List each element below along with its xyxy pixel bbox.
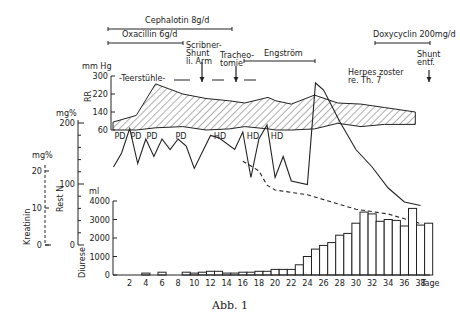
x-tick-label: 2: [127, 278, 132, 288]
diurese-bar: [336, 235, 344, 275]
diurese-bar: [263, 271, 271, 275]
diurese-bar: [207, 271, 215, 275]
diurese-bar: [287, 269, 295, 275]
diurese-bar: [368, 214, 376, 275]
kreatinin-tick-label: 0: [37, 240, 42, 250]
diurese-axis-label: Diurese: [77, 247, 87, 278]
diurese-bar: [215, 271, 223, 275]
teerstuehle-label: -Teerstühle-: [119, 74, 165, 83]
diurese-bar: [376, 221, 384, 275]
x-tick-label: 8: [176, 278, 181, 288]
dialysis-label: HD: [271, 131, 283, 141]
figure-caption: Abb. 1: [211, 299, 248, 312]
x-tick-label: 22: [286, 278, 296, 288]
rr-tick-label: 220: [93, 89, 108, 99]
rr-axis-label: RR: [83, 90, 93, 102]
diurese-bar: [344, 233, 352, 275]
x-tick-label: 30: [351, 278, 361, 288]
diurese-bar: [425, 223, 433, 275]
x-tick-label: 32: [367, 278, 377, 288]
x-tick-label: 26: [318, 278, 328, 288]
therapy-label: Doxycyclin 200mg/d: [373, 29, 456, 39]
diurese-tick-label: 4000: [89, 196, 110, 206]
x-tick-label: 14: [221, 278, 231, 288]
x-tick-label: 4: [143, 278, 148, 288]
event-label: re. Th. 7: [348, 76, 381, 85]
diurese-bar: [279, 269, 287, 275]
x-tick-label: 18: [254, 278, 264, 288]
diurese-bar: [303, 257, 311, 276]
diurese-bar: [417, 225, 425, 275]
rr-tick-label: 300: [93, 71, 108, 81]
therapy-label: Cephalotin 8g/d: [145, 15, 209, 25]
diurese-panel: 40003000200010000mlDiurese: [77, 186, 433, 280]
kreatinin-unit: mg%: [32, 150, 53, 160]
kreatinin-tick-label: 10: [32, 203, 42, 213]
dialysis-label: PD: [146, 131, 157, 141]
event-label: li. Arm: [186, 57, 212, 66]
therapy-label: Oxacillin 6g/d: [122, 29, 177, 39]
clinical-course-chart: Cephalotin 8g/dOxacillin 6g/dEngströmDox…: [0, 0, 460, 320]
diurese-bar: [392, 220, 400, 275]
diurese-bar: [409, 208, 417, 275]
rest-n-tick-label: 200: [60, 118, 75, 128]
diurese-bar: [400, 226, 408, 275]
rr-tick-label: 60: [98, 125, 108, 135]
therapy-label: Engström: [264, 48, 303, 58]
diurese-bar: [384, 220, 392, 276]
diurese-tick-label: 1000: [89, 252, 110, 262]
dialysis-label: HD: [214, 131, 226, 141]
kreatinin-tick-label: 20: [32, 166, 42, 176]
rr-area: [113, 84, 415, 130]
x-tick-label: 10: [189, 278, 199, 288]
therapy-bars: Cephalotin 8g/dOxacillin 6g/dEngströmDox…: [108, 15, 456, 63]
x-tick-label: 16: [238, 278, 248, 288]
diurese-bar: [312, 249, 320, 275]
rest-n-tick-label: 0: [70, 240, 75, 250]
diurese-bar: [295, 265, 303, 275]
diurese-bar: [328, 243, 336, 275]
dialysis-label: PD: [114, 131, 125, 141]
rr-unit: mm Hg: [82, 61, 112, 71]
x-axis-unit: Tage: [420, 278, 440, 288]
x-tick-label: 20: [270, 278, 280, 288]
rest-n-axis-label: Rest N: [55, 186, 65, 212]
diurese-bar: [255, 271, 263, 275]
dialysis-label: HD: [247, 131, 259, 141]
diurese-unit: ml: [89, 186, 99, 196]
diurese-bar: [320, 245, 328, 275]
x-tick-label: 34: [383, 278, 393, 288]
diurese-bar: [271, 269, 279, 275]
x-tick-label: 12: [205, 278, 215, 288]
rest-n-unit: mg%: [56, 108, 77, 118]
kreatinin-axis-label: Kreatinin: [22, 209, 32, 245]
x-tick-label: 24: [302, 278, 312, 288]
event-label: tomie: [220, 59, 243, 68]
x-tick-label: 6: [159, 278, 164, 288]
diurese-bar: [352, 223, 360, 275]
x-axis: 2468101214161820222426283032343638Tage: [113, 275, 440, 288]
diurese-tick-label: 2000: [89, 233, 110, 243]
event-label: entf.: [417, 58, 435, 67]
x-tick-label: 28: [335, 278, 345, 288]
diurese-tick-label: 0: [105, 270, 110, 280]
x-tick-label: 36: [399, 278, 409, 288]
diurese-bar: [360, 212, 368, 275]
rr-tick-label: 140: [93, 107, 108, 117]
diurese-tick-label: 3000: [89, 215, 110, 225]
